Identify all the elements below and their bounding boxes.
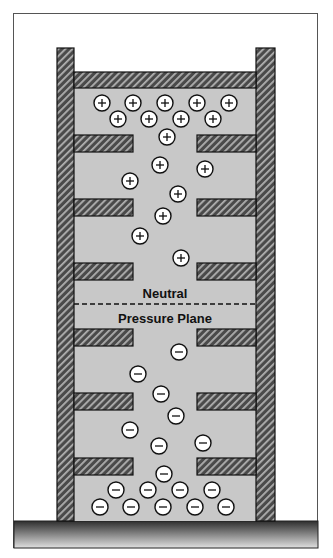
positive-ion-icon xyxy=(141,111,157,127)
floor-slab-right xyxy=(197,393,256,410)
neutral-label: Neutral xyxy=(143,286,188,301)
positive-ion-icon xyxy=(205,111,221,127)
floor-slab-right xyxy=(197,329,256,346)
positive-ion-icon xyxy=(94,95,110,111)
negative-ion-icon xyxy=(195,435,211,451)
floor-slab-right xyxy=(197,135,256,152)
floor-slab-left xyxy=(74,458,133,475)
negative-ion-icon xyxy=(153,386,169,402)
positive-ion-icon xyxy=(157,95,173,111)
floor-slab-left xyxy=(74,135,133,152)
floor-slab-right xyxy=(197,263,256,280)
positive-ion-icon xyxy=(155,208,171,224)
floor-slab-right xyxy=(197,199,256,216)
floor-slab-left xyxy=(74,199,133,216)
negative-ion-icon xyxy=(151,438,167,454)
right-wall xyxy=(256,48,275,521)
negative-ion-icon xyxy=(108,482,124,498)
floor-slab-left xyxy=(74,263,133,280)
floor-slab-left xyxy=(74,329,133,346)
positive-ion-icon xyxy=(125,95,141,111)
negative-ion-icon xyxy=(218,499,234,515)
positive-ion-icon xyxy=(152,157,168,173)
stack-effect-diagram: Neutral Pressure Plane xyxy=(0,0,333,558)
positive-ion-icon xyxy=(159,129,175,145)
positive-ion-icon xyxy=(173,250,189,266)
floor-slab-left xyxy=(74,393,133,410)
negative-ion-icon xyxy=(155,499,171,515)
negative-ion-icon xyxy=(122,422,138,438)
left-wall xyxy=(57,48,74,521)
negative-ion-icon xyxy=(140,482,156,498)
positive-ion-icon xyxy=(221,95,237,111)
positive-ion-icon xyxy=(110,111,126,127)
positive-ion-icon xyxy=(122,173,138,189)
positive-ion-icon xyxy=(132,228,148,244)
negative-ion-icon xyxy=(130,366,146,382)
floor-slab-right xyxy=(197,458,256,475)
negative-ion-icon xyxy=(92,499,108,515)
positive-ion-icon xyxy=(189,95,205,111)
pressure-plane-label: Pressure Plane xyxy=(118,311,212,326)
roof xyxy=(74,72,256,88)
negative-ion-icon xyxy=(172,482,188,498)
negative-ion-icon xyxy=(156,466,172,482)
negative-ion-icon xyxy=(187,499,203,515)
negative-ion-icon xyxy=(123,499,139,515)
ground xyxy=(14,521,318,548)
positive-ion-icon xyxy=(170,186,186,202)
positive-ion-icon xyxy=(197,161,213,177)
negative-ion-icon xyxy=(204,482,220,498)
negative-ion-icon xyxy=(171,344,187,360)
negative-ion-icon xyxy=(168,408,184,424)
positive-ion-icon xyxy=(173,111,189,127)
